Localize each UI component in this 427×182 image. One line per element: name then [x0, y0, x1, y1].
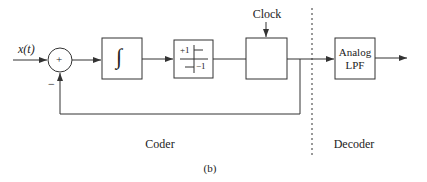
input-label: x(t): [18, 43, 35, 55]
lpf-label-line2: LPF: [335, 59, 375, 72]
lpf-label-line1: Analog: [335, 46, 375, 59]
quantizer-minus-label: −1: [196, 62, 206, 71]
lpf-label: Analog LPF: [335, 46, 375, 72]
figure-caption: (b): [204, 163, 217, 174]
summer-plus-sign: +: [56, 54, 62, 65]
block-diagram: [0, 0, 427, 182]
coder-section-label: Coder: [145, 138, 174, 150]
decoder-section-label: Decoder: [334, 138, 375, 150]
clock-label: Clock: [253, 8, 282, 20]
quantizer-plus-label: +1: [180, 46, 190, 55]
integrator-symbol: ∫: [116, 46, 122, 68]
summer-minus-sign: −: [48, 78, 55, 90]
sampler-box: [246, 38, 287, 79]
